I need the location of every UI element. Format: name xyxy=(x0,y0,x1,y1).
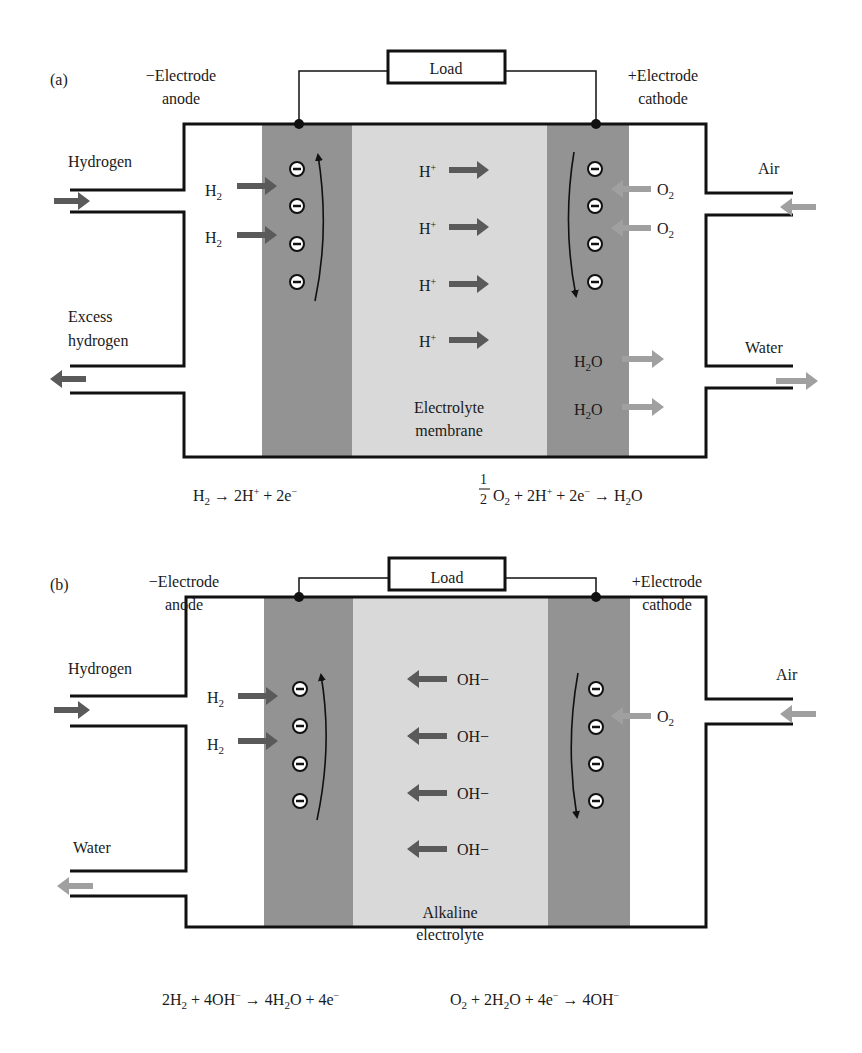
excess-hydrogen-outlet-arrow xyxy=(50,370,86,388)
ion-label: OH− xyxy=(457,671,489,688)
svg-text:H2: H2 xyxy=(207,736,224,756)
anode-electrode-band xyxy=(264,597,353,927)
anode-reaction: H2 → 2H+ + 2e− xyxy=(193,486,297,507)
ion-label: OH− xyxy=(457,785,489,802)
svg-text:H2: H2 xyxy=(205,182,222,202)
air-inlet-arrow xyxy=(780,705,816,723)
air-inlet-label: Air xyxy=(776,666,798,683)
anode-label-line1: −Electrode xyxy=(149,573,219,590)
svg-text:O2: O2 xyxy=(657,220,674,240)
cathode-label-line1: +Electrode xyxy=(628,67,698,84)
air-inlet-arrow xyxy=(780,198,816,216)
anode-terminal xyxy=(294,592,304,602)
svg-text:1: 1 xyxy=(480,472,487,487)
water-outlet-arrow xyxy=(57,877,93,895)
panel-label: (b) xyxy=(50,576,69,594)
cathode-terminal xyxy=(591,592,601,602)
alkaline-electrolyte-band xyxy=(353,597,548,927)
air-inlet-label: Air xyxy=(758,160,780,177)
electrolyte-name-line2: membrane xyxy=(415,422,483,439)
svg-text:O2: O2 xyxy=(657,181,674,201)
hydrogen-inlet-arrow xyxy=(54,192,90,210)
fuel-cell-diagram: (a) Load −Electrode anode +Electrode cat… xyxy=(0,0,862,1053)
ion-label: OH− xyxy=(457,728,489,745)
anode-reaction: 2H2 + 4OH− → 4H2O + 4e− xyxy=(162,990,340,1011)
hydrogen-inlet-label: Hydrogen xyxy=(68,153,132,171)
cathode-terminal xyxy=(591,119,601,129)
anode-terminal xyxy=(294,119,304,129)
anode-electrode-band xyxy=(262,124,352,457)
cathode-reaction: 1 2 O2 + 2H+ + 2e− → H2O xyxy=(479,472,643,507)
cathode-reaction: O2 + 2H2O + 4e− → 4OH− xyxy=(450,990,620,1011)
electrolyte-name-line1: Electrolyte xyxy=(414,399,484,417)
load-label: Load xyxy=(430,60,463,77)
hydrogen-inlet-label: Hydrogen xyxy=(68,660,132,678)
svg-text:O2 + 2H+ + 2e− → H2O: O2 + 2H+ + 2e− → H2O xyxy=(493,486,643,507)
ion-label: OH− xyxy=(457,841,489,858)
anode-label-line2: anode xyxy=(165,596,203,613)
svg-text:O2: O2 xyxy=(657,708,674,728)
excess-hydrogen-label-line2: hydrogen xyxy=(68,332,128,350)
hydrogen-inlet-arrow xyxy=(54,701,90,719)
water-outlet-label: Water xyxy=(745,339,783,356)
cathode-label-line1: +Electrode xyxy=(632,573,702,590)
panel-a: (a) Load −Electrode anode +Electrode cat… xyxy=(50,51,818,507)
excess-hydrogen-label-line1: Excess xyxy=(68,308,112,325)
electrolyte-name-line1: Alkaline xyxy=(422,904,477,921)
load-label: Load xyxy=(431,569,464,586)
electrolyte-name-line2: electrolyte xyxy=(416,926,484,944)
water-outlet-label: Water xyxy=(73,839,111,856)
svg-text:H2: H2 xyxy=(207,689,224,709)
anode-label-line1: −Electrode xyxy=(146,67,216,84)
cathode-electrode-band xyxy=(547,124,629,457)
anode-label-line2: anode xyxy=(162,90,200,107)
panel-b: (b) Load −Electrode anode +Electrode cat… xyxy=(50,558,816,1011)
cathode-label-line2: cathode xyxy=(638,90,688,107)
panel-label: (a) xyxy=(50,71,68,89)
svg-text:2: 2 xyxy=(480,492,487,507)
svg-text:H2: H2 xyxy=(205,229,222,249)
cathode-label-line2: cathode xyxy=(642,596,692,613)
